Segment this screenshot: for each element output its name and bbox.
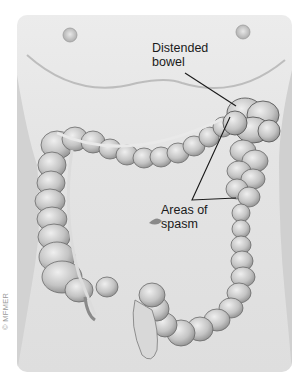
distended-bowel: [223, 98, 280, 143]
right-nipple-icon: [236, 25, 250, 39]
descending-colon: [219, 140, 268, 318]
spasm-label-line1: Areas of: [161, 203, 208, 217]
spasm-label-line2: spasm: [161, 217, 208, 231]
distended-leader-line: [185, 73, 236, 106]
ileum-end: [96, 277, 118, 297]
illustration-panel: Distended bowel Areas of spasm: [17, 15, 292, 372]
distended-label-line1: Distended: [152, 41, 208, 55]
left-nipple-icon: [63, 28, 77, 42]
areas-of-spasm-label: Areas of spasm: [161, 203, 208, 231]
distended-bowel-label: Distended bowel: [152, 41, 208, 69]
torso-left-contour: [17, 75, 40, 372]
distended-label-line2: bowel: [152, 55, 208, 69]
copyright-notice: © MFMER: [1, 278, 11, 330]
torso-right-contour: [279, 70, 292, 372]
ascending-colon: [35, 152, 93, 302]
